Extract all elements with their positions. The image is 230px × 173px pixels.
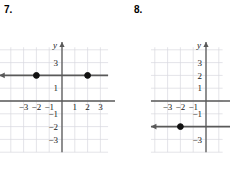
x-tick-label: −2 xyxy=(176,102,186,112)
y-tick-label: −1 xyxy=(48,109,58,119)
coordinate-plane-8: y−3−2−1321−1−3 xyxy=(115,0,230,173)
x-tick-label: −2 xyxy=(32,102,42,112)
line-arrowhead-left xyxy=(151,124,157,130)
graph-container-7: yx−3−2−112331−1−2−3 xyxy=(0,0,115,173)
tick-labels: −3−2−1321−1−3 xyxy=(163,58,203,145)
y-tick-label: −1 xyxy=(192,109,202,119)
x-tick-label: −3 xyxy=(19,102,29,112)
plot-point xyxy=(178,124,184,130)
y-tick-label: 1 xyxy=(54,83,59,93)
y-tick-label: −2 xyxy=(48,122,58,132)
x-tick-label: 2 xyxy=(85,102,90,112)
problem-panel-8: 8. y−3−2−1321−1−3 xyxy=(115,0,230,173)
problem-panel-7: 7. yx−3−2−112331−1−2−3 xyxy=(0,0,115,173)
y-tick-label: 1 xyxy=(198,83,203,93)
y-tick-label: 3 xyxy=(54,58,59,68)
x-tick-label: 3 xyxy=(98,102,103,112)
grid-lines xyxy=(151,47,223,152)
y-axis-arrowhead xyxy=(203,42,208,47)
coordinate-plane-7: yx−3−2−112331−1−2−3 xyxy=(0,0,115,173)
line-arrowhead-left xyxy=(0,73,5,79)
x-tick-label: 1 xyxy=(73,102,78,112)
plotted-line xyxy=(0,73,108,79)
y-axis-arrowhead xyxy=(59,42,64,47)
graph-container-8: y−3−2−1321−1−3 xyxy=(115,0,230,173)
plot-point xyxy=(85,73,91,79)
axes xyxy=(151,42,230,152)
y-tick-label: 3 xyxy=(198,58,203,68)
plot-point xyxy=(34,73,40,79)
y-tick-label: 2 xyxy=(198,71,203,81)
y-axis-label: y xyxy=(196,40,201,50)
plotted-line xyxy=(151,124,230,130)
y-tick-label: −3 xyxy=(48,135,58,145)
y-tick-label: −3 xyxy=(192,135,202,145)
x-tick-label: −3 xyxy=(163,102,173,112)
y-axis-label: y xyxy=(52,40,57,50)
